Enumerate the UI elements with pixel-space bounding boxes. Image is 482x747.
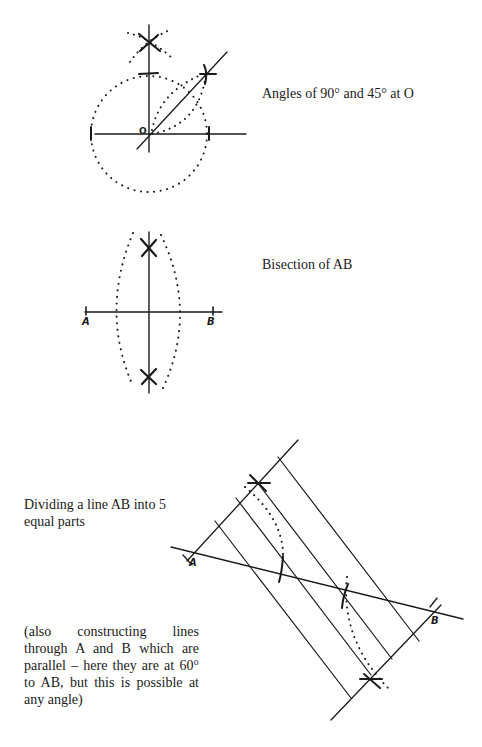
- point-label-b: B: [207, 316, 215, 327]
- arc-upper: [245, 487, 283, 560]
- arc-left: [117, 233, 134, 386]
- point-label-a: A: [81, 316, 90, 327]
- angle-construction-figure: O: [91, 25, 246, 192]
- point-label-o: O: [139, 126, 147, 136]
- parallel-line-a: [187, 440, 298, 561]
- tick-top: [139, 73, 158, 74]
- point-label-a: A: [188, 557, 197, 568]
- division-line-3: [257, 482, 392, 659]
- parallel-line-b: [331, 605, 441, 720]
- division-figure: A B: [171, 440, 463, 720]
- tick-b: [430, 598, 437, 607]
- line-ab: [171, 547, 463, 619]
- caption-bisection: Bisection of AB: [262, 256, 352, 273]
- caption-division-note: (also constructing lines through A and B…: [24, 623, 199, 708]
- arc-mark-2: [342, 584, 348, 608]
- arc-mark-1: [279, 556, 283, 582]
- arc-top-left: [128, 33, 172, 58]
- caption-division: Dividing a line AB into 5 equal parts: [24, 496, 194, 530]
- caption-angles: Angles of 90° and 45° at O: [262, 85, 414, 102]
- point-label-b: B: [431, 615, 439, 626]
- division-line-2: [236, 498, 371, 675]
- bisection-figure: A B: [81, 232, 222, 393]
- arc-top-right: [130, 30, 170, 62]
